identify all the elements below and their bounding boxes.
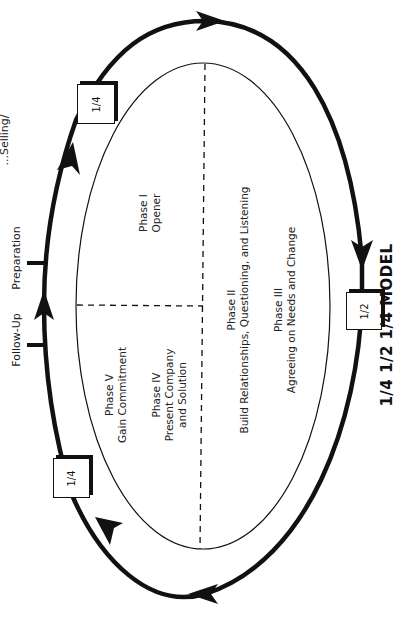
arrow-left-bottom [188,584,218,604]
follow-up-text: Follow-Up [10,313,23,367]
quarter-box-bottom-left: 1/4 [53,458,90,498]
quarter-box-top-left: 1/4 [77,84,115,124]
phase-1-desc: Opener [150,173,163,253]
phase-5-title: Phase V [103,345,116,445]
top-cut-text: ...Selling/ [0,114,11,165]
phase-4-desc-line2: and Solution [176,345,189,445]
half-box-right-label: 1/2 [359,303,370,319]
half-box-right: 1/2 [346,292,382,330]
quarter-box-top-left-label: 1/4 [91,96,102,112]
phase-1-block: Phase I Opener [137,173,163,253]
phase-2-title: Phase II [225,175,238,445]
phase-5-desc: Gain Commitment [116,345,129,445]
phase-3-title: Phase III [272,210,285,410]
phase-2-desc: Build Relationships, Questioning, and Li… [238,175,251,445]
phase-2-block: Phase II Build Relationships, Questionin… [225,175,251,445]
preparation-label: Preparation [10,218,24,298]
follow-up-label: Follow-Up [10,305,24,375]
model-title-text: 1/4 1/2 1/4 MODEL [378,243,396,406]
phase-4-block: Phase IV Present Company and Solution [150,345,189,445]
phase-4-title: Phase IV [150,345,163,445]
horizontal-dashed-divider [77,305,203,306]
model-title: 1/4 1/2 1/4 MODEL [378,220,397,430]
quarter-box-bottom-left-label: 1/4 [66,470,77,486]
preparation-text: Preparation [10,226,23,290]
phase-1-title: Phase I [137,173,150,253]
phase-4-desc-line1: Present Company [163,345,176,445]
top-cut-label: ...Selling/ [0,40,12,240]
phase-5-block: Phase V Gain Commitment [103,345,129,445]
phase-3-desc: Agreeing on Needs and Change [285,210,298,410]
phase-3-block: Phase III Agreeing on Needs and Change [272,210,298,410]
